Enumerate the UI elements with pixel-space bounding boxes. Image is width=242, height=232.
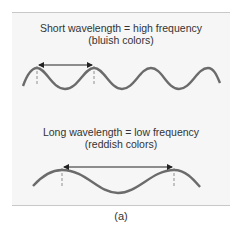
wave-diagram	[0, 0, 242, 232]
figure-caption: (a)	[0, 210, 242, 222]
short-wave	[23, 68, 220, 89]
long-wave	[33, 170, 200, 193]
